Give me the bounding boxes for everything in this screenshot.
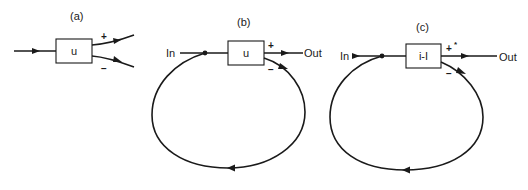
output-arrow-icon <box>281 50 289 56</box>
feedback-arrow-icon <box>456 67 466 74</box>
plus-sign: + <box>446 43 452 54</box>
panel-a: (a) u + − <box>14 10 134 74</box>
feedback-return-arrow-icon <box>227 165 235 172</box>
minus-output-arrow-icon <box>113 56 122 62</box>
input-arrow-icon <box>32 48 40 54</box>
operator-box-label: u <box>243 47 249 59</box>
minus-sign: − <box>268 64 274 75</box>
diagram-canvas: (a) u + − (b) In u + Out − <box>0 0 528 190</box>
extra-mark: * <box>454 40 458 49</box>
panel-b: (b) In u + Out − <box>152 16 322 172</box>
minus-sign: − <box>446 68 452 79</box>
output-arrow-icon <box>461 53 469 59</box>
input-arrow-icon <box>352 53 360 59</box>
minus-output-line <box>92 56 134 67</box>
input-label: In <box>166 47 175 59</box>
feedback-loop <box>152 53 305 168</box>
operator-box-label: u <box>71 45 77 57</box>
panel-a-label: (a) <box>70 10 83 22</box>
input-label: In <box>340 50 349 62</box>
operator-box-label: i-I <box>419 50 428 62</box>
output-label: Out <box>304 47 322 59</box>
feedback-arrow-icon <box>278 63 288 69</box>
plus-output-line <box>92 35 134 45</box>
output-label: Out <box>499 51 517 63</box>
plus-sign: + <box>268 40 274 51</box>
minus-sign: − <box>101 63 107 74</box>
panel-c: (c) In i-I + * Out − <box>330 21 517 174</box>
panel-b-label: (b) <box>237 16 250 28</box>
panel-c-label: (c) <box>416 21 429 33</box>
feedback-return-arrow-icon <box>402 167 410 174</box>
plus-sign: + <box>101 31 107 42</box>
